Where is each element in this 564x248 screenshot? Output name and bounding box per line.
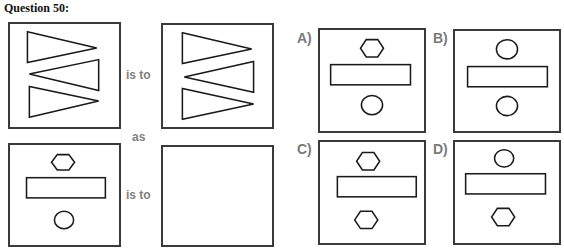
is-to-text-1: is to <box>126 68 151 82</box>
option-a-box[interactable] <box>318 28 426 133</box>
option-b-label: B) <box>433 30 448 46</box>
option-d-label: D) <box>433 141 448 157</box>
shapes-figure <box>455 142 559 243</box>
shapes-figure <box>320 30 424 131</box>
figure-box-1 <box>8 22 121 129</box>
is-to-text-2: is to <box>126 188 151 202</box>
option-a-label: A) <box>297 30 312 46</box>
figure-box-2 <box>161 23 274 129</box>
option-d-box[interactable] <box>453 140 561 245</box>
shapes-figure <box>10 145 119 245</box>
shapes-figure <box>320 142 424 243</box>
answer-box-empty <box>161 145 274 247</box>
option-b-box[interactable] <box>453 29 561 133</box>
figure-box-3 <box>8 143 121 247</box>
option-c-label: C) <box>297 141 312 157</box>
question-title: Question 50: <box>4 1 69 16</box>
option-c-box[interactable] <box>318 140 426 245</box>
shapes-figure <box>455 31 559 131</box>
triangles-figure <box>10 24 119 127</box>
triangles-figure <box>163 25 272 127</box>
as-text: as <box>132 130 145 144</box>
